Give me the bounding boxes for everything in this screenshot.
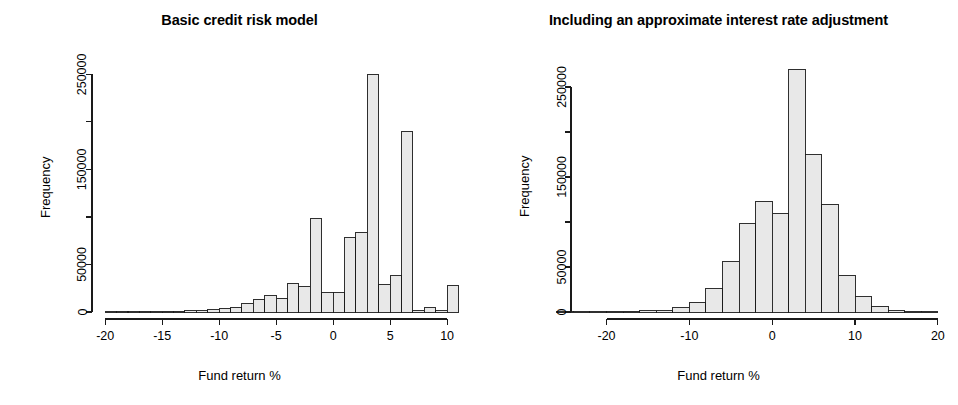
x-tick-label: -15 [153, 329, 171, 343]
x-tick-label: 10 [440, 329, 454, 343]
histogram-bar [219, 308, 230, 312]
y-axis-title-left: Frequency [38, 157, 53, 218]
histogram-bar [139, 312, 150, 313]
histogram-bar [739, 224, 756, 312]
histogram-bar [706, 289, 723, 312]
histogram-bar [673, 308, 690, 312]
histogram-bar [242, 303, 253, 312]
histogram-bar [288, 283, 299, 312]
histogram-bar [356, 232, 367, 312]
histogram-bar [208, 310, 219, 312]
histogram-bar [838, 275, 855, 312]
histogram-bar [413, 310, 424, 312]
histogram-bar [888, 311, 905, 312]
histogram-bar [174, 311, 185, 312]
histogram-svg-left: -20-15-10-50510050000150000250000 [0, 0, 479, 405]
histogram-bar [905, 312, 922, 313]
y-axis: 050000150000250000 [555, 66, 572, 315]
histogram-bar [772, 213, 789, 312]
histogram-bar [590, 312, 607, 313]
y-tick-label: 0 [76, 308, 90, 315]
histogram-bar [196, 310, 207, 312]
x-tick-label: 10 [848, 329, 862, 343]
histogram-bar [265, 296, 276, 312]
y-tick-label: 0 [555, 308, 569, 315]
x-tick-label: 20 [931, 329, 945, 343]
y-tick-label: 50000 [76, 247, 90, 282]
x-tick-label: 0 [330, 329, 337, 343]
x-tick-label: -5 [271, 329, 282, 343]
histogram-bar [117, 312, 128, 313]
x-tick-label: 5 [387, 329, 394, 343]
histogram-bar [333, 293, 344, 312]
y-tick-label: 50000 [555, 250, 569, 285]
y-axis-title-right: Frequency [517, 155, 532, 216]
x-axis-title-left: Fund return % [0, 368, 479, 383]
histogram-svg-right: -20-1001020050000150000250000 [479, 0, 958, 405]
y-tick-label: 150000 [555, 156, 569, 198]
histogram-bar [322, 293, 333, 312]
histogram-bar [855, 297, 872, 312]
x-tick-label: -20 [96, 329, 114, 343]
histogram-bar [623, 311, 640, 312]
histogram-bar [162, 311, 173, 312]
y-tick-label: 250000 [555, 66, 569, 108]
histogram-bar [640, 311, 657, 312]
histogram-bar [789, 69, 806, 312]
panel-basic-credit-risk-model: Basic credit risk model -20-15-10-505100… [0, 0, 479, 405]
plot-area-right: -20-1001020050000150000250000 [479, 0, 958, 405]
y-tick-label: 250000 [76, 53, 90, 95]
x-axis: -20-1001020 [598, 319, 945, 343]
histogram-figure: Basic credit risk model -20-15-10-505100… [0, 0, 958, 405]
histogram-bar [872, 306, 889, 312]
histogram-bar [151, 312, 162, 313]
histogram-bar [756, 201, 773, 312]
histogram-bar [276, 298, 287, 312]
histogram-bar [822, 204, 839, 312]
histogram-bar [921, 312, 938, 313]
histogram-bar [689, 302, 706, 312]
histogram-bar [345, 238, 356, 312]
x-tick-label: -10 [210, 329, 228, 343]
bars-group [557, 69, 938, 313]
histogram-bar [379, 284, 390, 312]
histogram-bar [436, 311, 447, 312]
histogram-bar [128, 312, 139, 313]
histogram-bar [402, 131, 413, 312]
y-tick-label: 150000 [76, 149, 90, 191]
x-tick-label: 0 [769, 329, 776, 343]
bars-group [105, 74, 458, 312]
histogram-bar [805, 155, 822, 313]
x-axis: -20-15-10-50510 [96, 319, 454, 343]
histogram-bar [390, 276, 401, 312]
histogram-bar [310, 219, 321, 312]
y-axis: 050000150000250000 [76, 53, 93, 315]
histogram-bar [573, 312, 590, 313]
plot-area-left: -20-15-10-50510050000150000250000 [0, 0, 479, 405]
histogram-bar [367, 74, 378, 312]
panel-interest-rate-adjustment: Including an approximate interest rate a… [479, 0, 958, 405]
histogram-bar [424, 308, 435, 312]
histogram-bar [231, 307, 242, 312]
histogram-bar [105, 312, 116, 313]
histogram-bar [447, 285, 458, 312]
x-axis-title-right: Fund return % [479, 368, 958, 383]
x-tick-label: -10 [680, 329, 698, 343]
histogram-bar [253, 299, 264, 312]
histogram-bar [656, 310, 673, 312]
histogram-bar [723, 262, 740, 312]
histogram-bar [607, 312, 624, 313]
histogram-bar [185, 311, 196, 312]
x-tick-label: -20 [598, 329, 616, 343]
histogram-bar [299, 286, 310, 312]
